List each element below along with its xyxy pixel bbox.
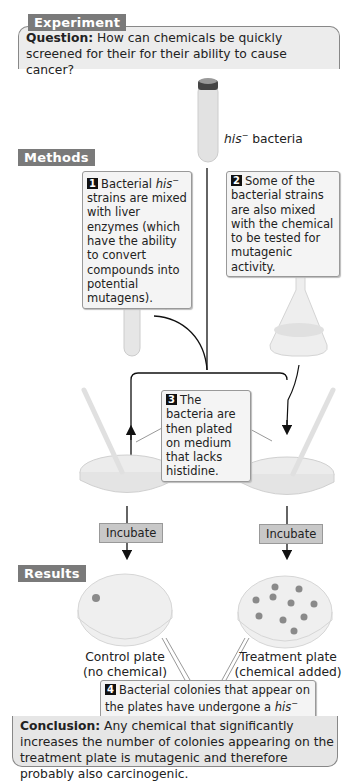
plating-dish-left-icon <box>80 390 174 493</box>
step-3-callout: 3The bacteria are then plated on medium … <box>161 390 251 482</box>
conclusion-label: Conclusion: <box>20 719 100 733</box>
colony <box>92 594 100 602</box>
step-2-text: Some of the bacterial strains are also m… <box>231 174 333 274</box>
plating-dish-right-icon <box>240 390 334 495</box>
treatment-plate-title: Treatment plate <box>232 650 344 665</box>
bacteria-tube-icon <box>198 78 218 162</box>
step-2-number: 2 <box>231 175 242 186</box>
step-4-his-a: his <box>275 700 291 714</box>
step-1-his: his <box>156 177 172 191</box>
step-4-minus: − <box>291 699 298 708</box>
step-3-number: 3 <box>166 394 177 405</box>
control-plate-label: Control plate (no chemical) <box>75 650 175 680</box>
results-tag: Results <box>18 565 86 582</box>
control-plate-icon <box>78 574 172 646</box>
incubate-left-label: Incubate <box>99 523 163 543</box>
control-plate-subtitle: (no chemical) <box>75 665 175 680</box>
bacteria-label: his− bacteria <box>224 131 303 146</box>
treatment-plate-label: Treatment plate (chemical added) <box>232 650 344 680</box>
step-1-minus: − <box>172 176 179 185</box>
control-plate-title: Control plate <box>75 650 175 665</box>
step-1-text-b: strains are mixed with liver enzymes (wh… <box>87 191 187 305</box>
step-1-text-a: Bacterial <box>101 177 156 191</box>
conclusion-text: Conclusion: Any chemical that significan… <box>20 718 338 782</box>
step-1-number: 1 <box>87 178 98 189</box>
methods-tag: Methods <box>18 149 95 166</box>
treatment-plate-icon <box>238 576 332 648</box>
step-4-number: 4 <box>105 684 116 695</box>
step-3-text: The bacteria are then plated on medium t… <box>166 393 235 478</box>
treatment-plate-subtitle: (chemical added) <box>232 665 344 680</box>
step-2-callout: 2Some of the bacterial strains are also … <box>226 171 340 277</box>
step-1-callout: 1Bacterial his− strains are mixed with l… <box>82 171 192 309</box>
incubate-right-label: Incubate <box>259 524 323 544</box>
bacteria-text: bacteria <box>248 132 302 146</box>
his-italic: his <box>224 132 242 146</box>
